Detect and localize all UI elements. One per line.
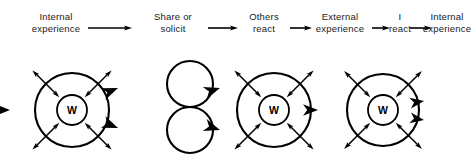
node-letter: W [378, 104, 388, 116]
self-node-3: W [342, 69, 423, 150]
other-node-top [167, 61, 213, 107]
node-letter: W [67, 104, 77, 116]
stage-label-share-or-solicit: Share or solicit [123, 11, 223, 34]
node-letter: W [269, 104, 279, 116]
stage-label-internal-experience-end: Internal experience [397, 11, 476, 34]
flow-into-self-1 [0, 104, 10, 116]
self-node-2: W [233, 69, 315, 151]
self-node-1: W [31, 69, 113, 151]
flow-self1-to-other-bottom [101, 116, 121, 134]
stage-label-internal-experience-start: Internal experience [6, 11, 106, 34]
